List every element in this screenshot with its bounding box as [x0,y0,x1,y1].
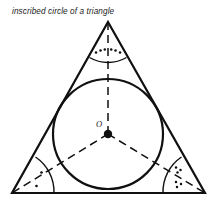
angle-marker-bottom-right [163,157,182,193]
angle-marker-apex-dot-3 [104,48,107,51]
angle-marker-apex-dot-6 [119,51,122,54]
angle-marker-bottom-right-dot-4 [175,181,178,184]
angle-marker-apex-dot-2 [99,49,102,52]
angle-marker-bottom-right-dot-1 [175,166,178,169]
bisector-to-bottom-left [12,134,108,193]
angle-marker-bottom-left [35,157,54,193]
bisector-to-bottom-right [108,134,205,193]
figure-root: inscribed circle of a triangle O [0,0,217,200]
angle-marker-bottom-left-arc [36,157,55,193]
geometry-canvas: O [0,0,217,200]
angle-marker-apex-dot-4 [110,48,113,51]
angle-marker-bottom-right-dot-6 [176,186,179,189]
angle-marker-apex-dot-1 [95,51,98,54]
angle-marker-bottom-right-dot-2 [179,169,182,172]
angle-marker-bottom-right-arc [163,157,182,193]
incenter-label: O [96,119,102,129]
angle-marker-bottom-left-dot-1 [40,171,43,174]
angle-marker-bottom-right-dot-5 [180,183,183,186]
angle-marker-bottom-left-dot-2 [35,185,38,188]
incenter-point [104,130,112,138]
angle-marker-apex-dot-5 [114,49,117,52]
angle-marker-bottom-right-dot-3 [176,171,179,174]
